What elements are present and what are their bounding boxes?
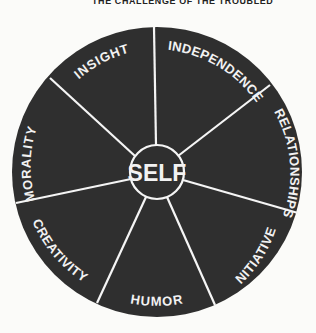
- center-label: SELF: [128, 160, 187, 186]
- segment-label-humor: HUMOR: [130, 291, 185, 309]
- self-wheel-diagram: SELF INDEPENDENCE RELATIONSHIPS INITIATI…: [0, 0, 316, 333]
